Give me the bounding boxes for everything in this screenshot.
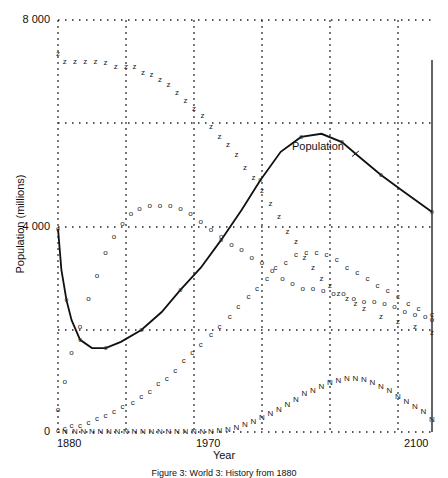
c-series-marker: c — [386, 286, 390, 295]
o-series-marker: o — [260, 258, 265, 267]
N-series-marker: N — [242, 420, 248, 429]
c-series-marker: c — [156, 379, 160, 388]
o-series-marker: o — [250, 253, 255, 262]
N-series-marker: N — [412, 402, 418, 411]
N-series-marker: N — [132, 427, 138, 436]
c-series-marker: c — [284, 258, 288, 267]
c-series-marker: c — [365, 274, 369, 283]
y-tick-4000: 4 000 — [2, 220, 50, 232]
c-series-marker: c — [416, 304, 420, 313]
N-series-marker: N — [259, 413, 265, 422]
N-series-marker: N — [166, 427, 172, 436]
N-series-marker: N — [115, 427, 121, 436]
N-series-marker: N — [72, 427, 78, 436]
o-series-marker: o — [280, 274, 285, 283]
o-series-marker: o — [362, 297, 367, 306]
o-series-marker: o — [321, 286, 326, 295]
z-series-marker: z — [379, 312, 383, 321]
o-series-marker: o — [219, 232, 224, 241]
z-series-marker: z — [175, 88, 179, 97]
c-series-marker: c — [87, 418, 91, 427]
z-series-marker: z — [73, 57, 77, 66]
N-series-marker: N — [225, 425, 231, 434]
o-series-marker: o — [352, 294, 357, 303]
N-series-marker: N — [81, 427, 87, 436]
z-series-marker: z — [396, 317, 400, 326]
z-series-marker: z — [320, 274, 324, 283]
N-series-marker: N — [157, 427, 163, 436]
z-series-marker: z — [413, 322, 417, 331]
N-series-marker: N — [361, 375, 367, 384]
o-series-marker: o — [382, 299, 387, 308]
o-series-marker: o — [188, 209, 193, 218]
c-series-marker: c — [294, 250, 298, 259]
x-tick-1880: 1880 — [57, 437, 81, 449]
c-series-marker: c — [131, 398, 135, 407]
c-series-marker: c — [209, 330, 213, 339]
c-series-marker: c — [236, 302, 240, 311]
z-series-marker: z — [192, 104, 196, 113]
c-series-marker: c — [148, 387, 152, 396]
z-series-marker: z — [133, 62, 137, 71]
N-series-marker: N — [404, 397, 410, 406]
o-series-marker: o — [199, 217, 204, 226]
svg-text:o: o — [258, 176, 262, 183]
c-series-marker: c — [228, 312, 232, 321]
N-series-marker: N — [395, 392, 401, 401]
N-series-marker: N — [208, 427, 214, 436]
c-series-marker: c — [396, 292, 400, 301]
o-series-marker: o — [178, 204, 183, 213]
c-series-marker: c — [265, 274, 269, 283]
z-series-marker: z — [158, 75, 162, 84]
z-series-marker: z — [83, 57, 87, 66]
x-axis-label: Year — [0, 449, 448, 461]
o-series-marker: o — [239, 245, 244, 254]
o-series-marker: o — [120, 219, 125, 228]
z-series-marker: z — [209, 122, 213, 131]
o-series-marker: o — [229, 240, 234, 249]
c-series-marker: c — [314, 248, 318, 257]
c-series-marker: c — [255, 284, 259, 293]
N-series-marker: N — [310, 386, 316, 395]
N-series-marker: N — [268, 409, 274, 418]
o-series-marker: o — [69, 348, 74, 357]
o-series-marker: o — [56, 405, 61, 414]
c-series-marker: c — [190, 348, 194, 357]
N-series-marker: N — [378, 382, 384, 391]
z-series-marker: z — [184, 96, 188, 105]
o-series-marker: o — [158, 201, 163, 210]
population-annotation: Population — [292, 140, 344, 152]
N-series-marker: N — [234, 423, 240, 432]
o-series-marker: o — [95, 271, 100, 280]
c-series-marker: c — [376, 281, 380, 290]
o-series-marker: o — [403, 307, 408, 316]
N-series-marker: N — [174, 427, 180, 436]
N-series-marker: N — [217, 426, 223, 435]
c-series-marker: c — [182, 356, 186, 365]
o-series-marker: o — [103, 248, 108, 257]
z-series-marker: z — [56, 49, 60, 58]
z-series-marker: z — [235, 150, 239, 159]
c-series-marker: c — [165, 374, 169, 383]
z-series-marker: z — [243, 163, 247, 172]
N-series-marker: N — [106, 427, 112, 436]
N-series-marker: N — [251, 417, 257, 426]
o-series-marker: o — [137, 204, 142, 213]
o-series-marker: o — [86, 294, 91, 303]
o-series-marker: o — [290, 279, 295, 288]
z-series-marker: z — [124, 62, 128, 71]
c-series-marker: c — [112, 407, 116, 416]
c-series-marker: c — [406, 299, 410, 308]
c-series-marker: c — [218, 322, 222, 331]
svg-text:o: o — [299, 133, 303, 140]
z-series-marker: z — [167, 80, 171, 89]
o-series-marker: o — [168, 201, 173, 210]
z-series-marker: z — [114, 62, 118, 71]
o-series-marker: o — [112, 232, 117, 241]
o-series-marker: o — [423, 312, 428, 321]
N-series-marker: N — [344, 374, 350, 383]
z-series-marker: z — [294, 237, 298, 246]
c-series-marker: c — [173, 366, 177, 375]
N-series-marker: N — [327, 378, 333, 387]
N-series-marker: N — [149, 427, 155, 436]
